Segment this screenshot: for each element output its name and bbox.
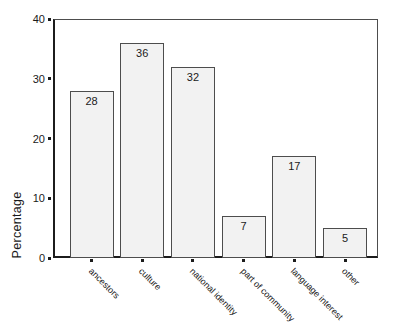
x-category-label: national identity [188,266,239,317]
x-tick-mark [242,259,245,262]
x-tick-mark [141,259,144,262]
x-category-label: culture [137,266,163,292]
bar-value-label: 28 [70,95,114,107]
y-tick-mark [48,197,51,200]
x-tick-mark [90,259,93,262]
y-tick-mark [48,18,51,21]
bar-national-identity [171,67,215,258]
y-tick-label: 0 [15,251,45,265]
y-tick-label: 30 [15,72,45,86]
x-category-label: ancestors [86,266,121,301]
y-tick-label: 40 [15,12,45,26]
x-tick-mark [191,259,194,262]
x-tick-mark [293,259,296,262]
bar-value-label: 5 [323,232,367,244]
y-tick-mark [48,137,51,140]
x-category-label: part of community [239,266,297,324]
y-tick-mark [48,77,51,80]
bar-ancestors [70,91,114,258]
bar-value-label: 7 [222,220,266,232]
bar-value-label: 17 [272,160,316,172]
bar-chart-figure: Percentage 01020304028ancestors36culture… [0,0,396,333]
bar-culture [120,43,164,258]
x-tick-mark [344,259,347,262]
bar-value-label: 36 [120,47,164,59]
y-tick-mark [48,257,51,260]
y-tick-label: 10 [15,191,45,205]
bar-value-label: 32 [171,71,215,83]
y-tick-label: 20 [15,132,45,146]
x-category-label: other [340,266,362,288]
x-category-label: language interest [289,266,345,322]
